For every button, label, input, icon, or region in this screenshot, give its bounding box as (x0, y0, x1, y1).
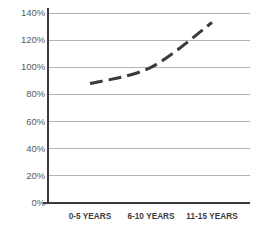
x-axis-tick-labels: 0-5 YEARS6-10 YEARS11-15 YEARS (0, 0, 256, 233)
x-axis-tick-label: 11-15 YEARS (172, 212, 252, 221)
chart-container: 0%20%40%60%80%100%120%140% 0-5 YEARS6-10… (0, 0, 256, 233)
